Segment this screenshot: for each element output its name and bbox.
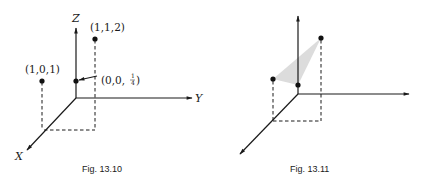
point-0-0-quarter [73, 78, 78, 83]
label-112: (1,1,2) [90, 21, 125, 33]
caption-fig-13-11: Fig. 13.11 [290, 164, 329, 174]
point-0-0-quarter [295, 82, 300, 87]
z-axis-label: Z [71, 12, 80, 25]
figure-13-11: Fig. 13.11 [240, 16, 409, 174]
label-101: (1,0,1) [25, 63, 60, 75]
x-axis [27, 98, 76, 150]
pointer-arrow [79, 76, 97, 80]
point-101 [39, 78, 44, 83]
label-0-0-quarter-suffix: ) [136, 74, 140, 86]
point-101 [270, 76, 275, 81]
figure-13-10: Z Y X (1,1,2) (1,0,1) (0,0, 1 4 ) Fig. 1… [14, 12, 204, 174]
x-axis-label: X [14, 150, 24, 163]
frac-numerator: 1 [131, 72, 135, 79]
frac-denominator: 4 [131, 79, 135, 86]
figure-canvas: Z Y X (1,1,2) (1,0,1) (0,0, 1 4 ) Fig. 1… [0, 0, 421, 182]
y-axis-label: Y [195, 92, 204, 105]
shaded-triangle [273, 38, 321, 85]
point-112 [92, 36, 97, 41]
x-axis [240, 94, 298, 154]
label-0-0-quarter-prefix: (0,0, [101, 74, 125, 86]
caption-fig-13-10: Fig. 13.10 [82, 164, 122, 174]
point-112 [318, 35, 323, 40]
